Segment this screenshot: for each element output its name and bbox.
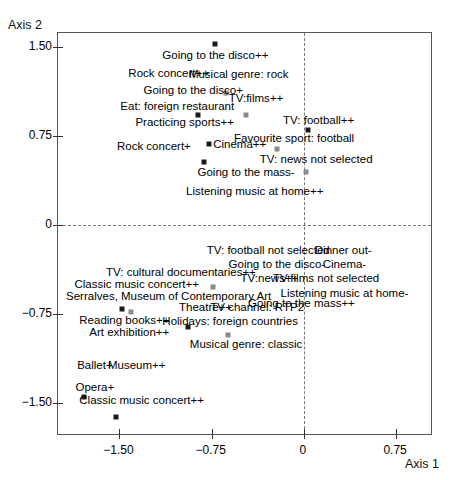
x-tick-label: −0.75 (196, 443, 226, 457)
y-tick-label: −1.50 (2, 395, 52, 409)
data-point-marker (207, 142, 212, 147)
data-point-label: Going to the disco++ (162, 49, 268, 61)
data-point-marker (304, 169, 309, 174)
y-tick-mark (53, 225, 63, 226)
data-point-label: TV: football not selected (207, 244, 330, 256)
y-tick-label: 0 (2, 217, 52, 231)
data-point-marker (119, 307, 124, 312)
x-tick-mark (212, 429, 213, 439)
data-point-marker (244, 112, 249, 117)
data-point-label: Rock concert+ (117, 140, 191, 152)
y-tick-label: 1.50 (2, 39, 52, 53)
data-point-marker (213, 41, 218, 46)
x-tick-mark (396, 429, 397, 439)
data-point-label: Practicing sports++ (135, 116, 233, 128)
data-point-label: TV: cultural documentaries++ (106, 266, 256, 278)
data-point-label: TV channel: RTP2 (210, 301, 304, 313)
x-tick-label: 0.75 (383, 443, 406, 457)
data-point-label: TV:films++ (229, 92, 284, 104)
y-tick-label: 0.75 (2, 128, 52, 142)
data-point-label: Museum++ (108, 359, 166, 371)
x-tick-mark (304, 429, 305, 439)
plot-area: Going to the disco++Rock concert++Musica… (57, 32, 432, 435)
data-point-label: Classic music concert++ (79, 394, 204, 406)
x-tick-mark (119, 429, 120, 439)
x-tick-label: 0 (300, 443, 307, 457)
horizontal-reference-line (58, 225, 431, 226)
vertical-reference-line (304, 33, 305, 434)
x-tick-label: −1.50 (103, 443, 133, 457)
y-axis-title: Axis 2 (8, 18, 42, 32)
data-point-label: Listening music at home++ (186, 185, 323, 197)
data-point-marker (113, 415, 118, 420)
data-point-label: Cinema++ (213, 138, 266, 150)
data-point-label: Art exhibition++ (89, 326, 169, 338)
data-point-label: Musical genre: classic (190, 338, 302, 350)
y-tick-label: −0.75 (2, 306, 52, 320)
y-tick-mark (53, 136, 63, 137)
data-point-label: Holidays: foreign countries (162, 315, 298, 327)
data-point-label: TV: football++ (283, 114, 354, 126)
data-point-label: Going to the mass- (198, 166, 295, 178)
data-point-label: Reading books++ (79, 314, 169, 326)
data-point-label: Classic music concert++ (74, 278, 199, 290)
data-point-label: Musical genre: rock (189, 68, 289, 80)
data-point-label: Eat: foreign restaurant (120, 100, 234, 112)
y-tick-mark (53, 47, 63, 48)
data-point-label: Dinner out- (315, 244, 372, 256)
data-point-label: TV:films not selected (273, 272, 379, 284)
scatter-plot: Axis 2 Axis 1 Going to the disco++Rock c… (0, 0, 469, 480)
data-point-marker (274, 147, 279, 152)
data-point-label: Opera+ (76, 381, 115, 393)
x-axis-title: Axis 1 (405, 457, 439, 471)
data-point-label: Cinema- (323, 258, 366, 270)
y-tick-mark (53, 314, 63, 315)
y-tick-mark (53, 403, 63, 404)
data-point-marker (210, 284, 215, 289)
data-point-label: TV: news not selected (260, 153, 373, 165)
data-point-marker (202, 160, 207, 165)
